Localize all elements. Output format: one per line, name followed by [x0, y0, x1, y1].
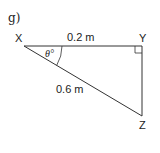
diagram-canvas: g) X Y Z 0.2 m 0.6 m θ° — [0, 0, 160, 153]
vertex-label-z: Z — [139, 120, 146, 131]
vertex-label-x: X — [15, 33, 22, 44]
side-xz — [24, 46, 142, 116]
triangle-drawing — [0, 0, 160, 153]
angle-arc-x — [57, 46, 62, 65]
vertex-label-y: Y — [139, 33, 146, 44]
right-angle-marker — [135, 46, 142, 53]
side-label-xy: 0.2 m — [67, 32, 95, 43]
side-label-xz: 0.6 m — [56, 84, 84, 95]
angle-label-theta: θ° — [45, 49, 54, 59]
part-label: g) — [8, 12, 20, 24]
